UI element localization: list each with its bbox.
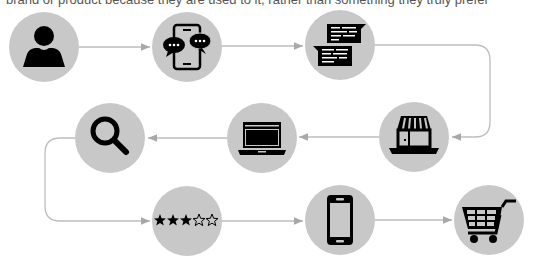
laptop-icon	[227, 103, 297, 173]
step-search	[75, 103, 145, 173]
smartphone-icon	[305, 185, 375, 255]
step-laptop	[227, 103, 297, 173]
phone-chat-icon	[152, 12, 222, 82]
shopping-cart-icon	[454, 185, 524, 255]
step-mobile-chat	[152, 12, 222, 82]
step-smartphone	[305, 185, 375, 255]
messages-icon	[305, 10, 375, 80]
step-purchase	[454, 185, 524, 255]
step-customer	[9, 12, 79, 82]
star-rating-icon	[152, 186, 222, 256]
step-messages	[305, 10, 375, 80]
search-icon	[75, 103, 145, 173]
person-icon	[9, 12, 79, 82]
step-store	[379, 102, 449, 172]
storefront-icon	[379, 102, 449, 172]
step-rating	[152, 186, 222, 256]
